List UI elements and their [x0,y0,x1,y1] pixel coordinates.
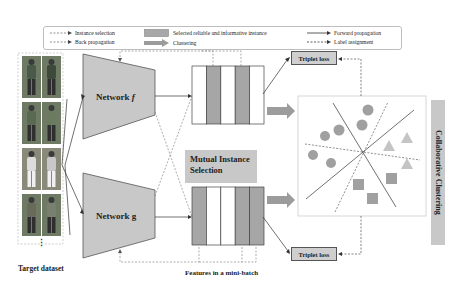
feature-cell [250,66,264,124]
label-assignment-top [340,59,361,96]
back-propagation-top [120,51,213,66]
collaborative-clustering-text: Collaborative Clustering [434,130,443,215]
person-image [22,148,41,190]
person-image [42,102,61,144]
selected-feature-cell [206,66,220,124]
feature-cell [206,187,220,245]
forward-arrow-dataset-g [62,99,83,212]
features-caption: Features in a mini-batch [185,269,258,277]
cluster-point-circle [308,150,318,160]
arrowhead [118,249,122,253]
back-propagation-bottom-3 [242,247,256,262]
cluster-point-circle [363,105,374,116]
forward-arrow-dataset-f [65,97,83,235]
clustering-arrow-bottom [267,192,295,208]
network-g-label: Network g [96,211,136,221]
selected-feature-cell [235,187,249,245]
feature-batch-top [192,66,264,124]
triplet-loss-top: Triplet loss [291,51,337,65]
cluster-point-circle [320,131,330,141]
label-assignment-bottom [340,216,361,254]
cluster-point-circle [326,158,336,168]
mis-line-1: Mutual Instance [190,154,252,165]
person-image [42,148,61,190]
back-propagation-bottom-2 [199,247,242,262]
diagram-canvas [0,0,462,291]
feature-batch-bottom [192,187,264,245]
forward-arrow-triplet-top [263,60,287,94]
arrowhead [118,58,122,62]
mis-line-2: Selection [190,165,252,176]
back-propagation-bottom [120,247,199,262]
cluster-point-circle [357,120,368,131]
clustering-arrow-top [267,103,295,119]
ellipsis-icon: ⋮ [37,238,46,248]
person-image [22,194,41,236]
person-image [22,56,41,98]
mutual-instance-selection-label: Mutual Instance Selection [185,150,257,183]
cluster-point-square [386,173,397,184]
selected-feature-cell [250,187,264,245]
cluster-point-circle [334,125,345,136]
person-image [22,102,41,144]
arrowhead [338,57,342,61]
collaborative-clustering-label: Collaborative Clustering [431,100,445,245]
cluster-point-square [353,179,364,190]
selected-feature-cell [192,187,206,245]
person-image [42,194,61,236]
cluster-point-square [367,193,378,204]
target-dataset-caption: Target dataset [18,264,64,273]
network-f-label: Network f [96,92,135,102]
feature-cell [221,187,235,245]
arrowhead [338,252,342,256]
selected-feature-cell [235,66,249,124]
arrowhead [286,249,290,254]
feature-cell [221,66,235,124]
person-image [42,56,61,98]
feature-cell [192,66,206,124]
network-g-text: Network g [96,211,136,221]
back-propagation-top-2 [200,51,241,66]
forward-arrow-triplet-bottom [263,217,288,251]
triplet-loss-bottom: Triplet loss [291,247,337,261]
